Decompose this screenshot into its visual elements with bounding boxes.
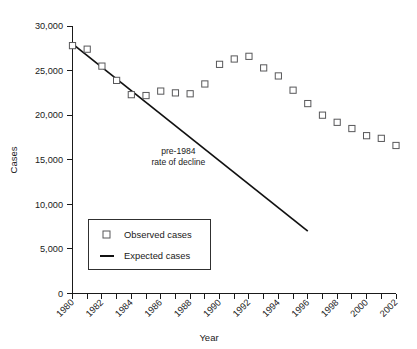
y-tick-label: 20,000 [35,110,63,120]
legend-label-expected: Expected cases [124,250,190,261]
data-point-marker [114,77,120,83]
data-point-marker [202,81,208,87]
data-point-marker [305,100,311,106]
data-point-marker [275,73,281,79]
data-point-marker [99,63,105,69]
x-axis-title: Year [199,332,218,343]
legend-box [89,220,211,270]
data-point-marker [393,142,399,148]
legend-label-observed: Observed cases [124,229,192,240]
chart-legend: Observed cases Expected cases [89,220,211,270]
y-tick-label: 0 [58,289,63,299]
legend-observed-square-icon [103,231,110,238]
cases-scatter-chart: 05,00010,00015,00020,00025,00030,000 198… [0,0,417,349]
y-tick-label: 10,000 [35,200,63,210]
data-point-marker [69,43,75,49]
y-tick-label: 15,000 [35,155,63,165]
annotation-line-2: rate of decline [151,157,205,167]
data-point-marker [261,65,267,71]
data-point-marker [319,112,325,118]
data-point-marker [143,92,149,98]
y-tick-label: 5,000 [40,244,63,254]
data-point-marker [334,119,340,125]
data-point-marker [231,56,237,62]
data-point-marker [172,90,178,96]
y-tick-label: 25,000 [35,66,63,76]
data-point-marker [246,53,252,59]
data-point-marker [187,91,193,97]
annotation-line-1: pre-1984 [161,146,196,156]
data-point-marker [128,92,134,98]
data-point-marker [84,46,90,52]
y-axis-title: Cases [8,146,19,173]
data-point-marker [158,88,164,94]
y-tick-label: 30,000 [35,21,63,31]
data-point-marker [216,61,222,67]
data-point-marker [378,135,384,141]
chart-container: 05,00010,00015,00020,00025,00030,000 198… [0,0,417,349]
data-point-marker [363,133,369,139]
data-point-marker [290,87,296,93]
data-point-marker [349,125,355,131]
